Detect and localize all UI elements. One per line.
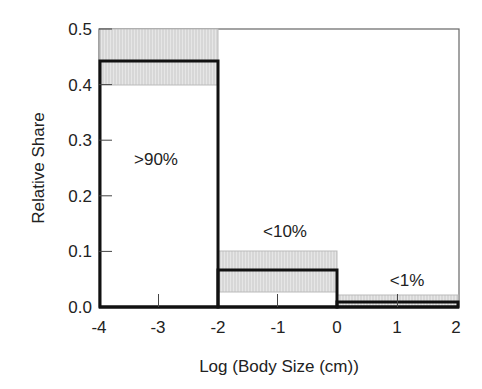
svg-text:-3: -3 bbox=[150, 318, 165, 337]
y-axis-title: Relative Share bbox=[29, 112, 48, 224]
svg-text:0.5: 0.5 bbox=[68, 20, 92, 39]
y-tick-labels: 0.0 0.1 0.2 0.3 0.4 0.5 bbox=[68, 20, 92, 317]
x-tick-labels: -4 -3 -2 -1 0 1 2 bbox=[91, 318, 460, 337]
chart: 0.0 0.1 0.2 0.3 0.4 0.5 -4 -3 -2 -1 0 1 … bbox=[0, 0, 482, 389]
svg-text:-4: -4 bbox=[91, 318, 106, 337]
svg-text:0.4: 0.4 bbox=[68, 76, 92, 95]
svg-text:2: 2 bbox=[451, 318, 460, 337]
svg-text:0.3: 0.3 bbox=[68, 131, 92, 150]
svg-text:0.2: 0.2 bbox=[68, 187, 92, 206]
svg-text:-2: -2 bbox=[210, 318, 225, 337]
annotation-bin-1: >90% bbox=[134, 150, 178, 169]
range-band-bin-1 bbox=[100, 29, 218, 85]
svg-text:-1: -1 bbox=[270, 318, 285, 337]
annotation-bin-2: <10% bbox=[263, 222, 307, 241]
svg-text:0.0: 0.0 bbox=[68, 298, 92, 317]
svg-text:0: 0 bbox=[332, 318, 341, 337]
x-axis-title: Log (Body Size (cm)) bbox=[199, 357, 359, 376]
svg-text:1: 1 bbox=[392, 318, 401, 337]
svg-text:0.1: 0.1 bbox=[68, 242, 92, 261]
annotation-bin-3: <1% bbox=[390, 271, 425, 290]
